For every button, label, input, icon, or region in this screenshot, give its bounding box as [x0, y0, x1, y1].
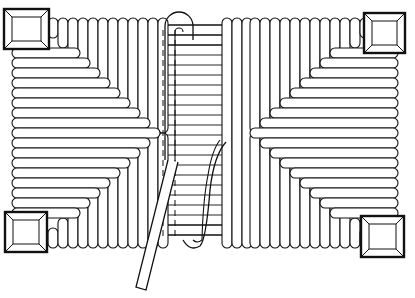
corner-post-bottom-left	[5, 212, 47, 252]
corner-post-top-right	[364, 13, 405, 53]
corner-post-top-left	[4, 9, 49, 49]
weaving-illustration	[0, 0, 415, 298]
corner-post-bottom-right	[361, 216, 404, 257]
rush-seat-diagram: Rush seat weaving pattern	[0, 0, 415, 298]
